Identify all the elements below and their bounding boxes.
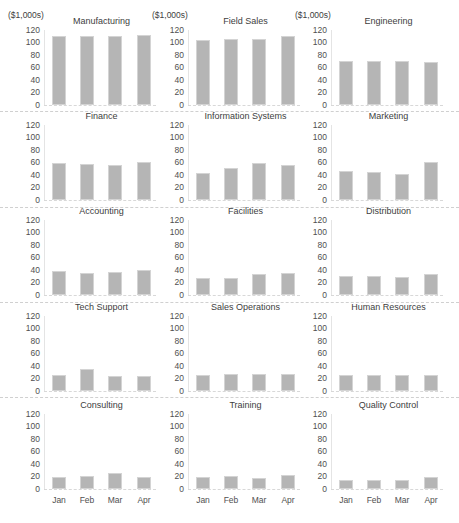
bar-feb (224, 168, 238, 200)
x-tick-label: Jan (189, 495, 217, 505)
bar-feb (367, 276, 381, 295)
x-axis-line (331, 489, 443, 490)
y-tick-label: 100 (305, 324, 327, 333)
x-axis-line (188, 200, 300, 201)
bar-apr (424, 162, 438, 200)
x-axis-line (188, 295, 300, 296)
y-tick-label: 0 (162, 387, 184, 396)
bar-jan (339, 480, 353, 489)
y-tick-label: 40 (18, 171, 40, 180)
y-tick-label: 40 (305, 76, 327, 85)
x-axis-line (331, 391, 443, 392)
bar-mar (252, 163, 266, 201)
y-tick-label: 80 (18, 337, 40, 346)
panel-title: Accounting (44, 206, 159, 216)
x-axis-line (188, 489, 300, 490)
bar-feb (224, 476, 238, 489)
bar-mar (395, 174, 409, 200)
y-tick-label: 20 (18, 374, 40, 383)
y-tick-label: 80 (162, 146, 184, 155)
y-tick-label: 20 (162, 183, 184, 192)
y-tick-label: 100 (162, 228, 184, 237)
y-tick-label: 40 (18, 460, 40, 469)
y-tick-label: 60 (162, 63, 184, 72)
x-axis-line (188, 105, 300, 106)
bar-jan (196, 278, 210, 295)
y-tick-label: 120 (162, 121, 184, 130)
y-tick-label: 20 (162, 88, 184, 97)
panel-title: Finance (44, 111, 159, 121)
y-tick-label: 0 (162, 196, 184, 205)
bar-apr (281, 475, 295, 489)
y-tick-label: 40 (305, 362, 327, 371)
y-tick-label: 120 (305, 26, 327, 35)
bar-jan (196, 173, 210, 201)
x-axis-line (188, 391, 300, 392)
x-tick-label: Jan (45, 495, 73, 505)
y-tick-label: 100 (305, 422, 327, 431)
y-axis-line (331, 125, 332, 200)
y-tick-label: 40 (305, 171, 327, 180)
y-tick-label: 120 (18, 216, 40, 225)
y-tick-label: 0 (305, 101, 327, 110)
y-tick-label: 100 (305, 228, 327, 237)
y-tick-label: 0 (162, 101, 184, 110)
y-tick-label: 80 (18, 241, 40, 250)
bar-mar (252, 274, 266, 295)
x-tick-label: Jan (332, 495, 360, 505)
x-tick-label: Mar (245, 495, 273, 505)
y-tick-label: 100 (162, 38, 184, 47)
bar-mar (108, 165, 122, 200)
panel-title: Sales Operations (188, 302, 303, 312)
y-axis-line (44, 30, 45, 105)
y-axis-line (188, 125, 189, 200)
y-tick-label: 60 (162, 447, 184, 456)
y-tick-label: 0 (305, 485, 327, 494)
y-tick-label: 60 (18, 158, 40, 167)
y-tick-label: 100 (162, 133, 184, 142)
bar-mar (108, 272, 122, 295)
x-tick-label: Feb (217, 495, 245, 505)
bar-apr (281, 36, 295, 105)
bar-feb (367, 61, 381, 105)
y-tick-label: 40 (305, 266, 327, 275)
y-tick-label: 100 (162, 324, 184, 333)
y-tick-label: 80 (305, 241, 327, 250)
y-tick-label: 40 (18, 76, 40, 85)
y-tick-label: 60 (305, 63, 327, 72)
y-tick-label: 80 (18, 51, 40, 60)
x-axis-line (44, 200, 156, 201)
bar-jan (52, 36, 66, 105)
panel-title: Engineering (331, 16, 446, 26)
bar-feb (80, 369, 94, 391)
y-tick-label: 0 (18, 485, 40, 494)
y-tick-label: 60 (305, 349, 327, 358)
y-axis-line (44, 220, 45, 295)
unit-label: ($1,000s) (8, 10, 44, 20)
x-tick-label: Apr (130, 495, 158, 505)
bar-feb (224, 374, 238, 391)
y-axis-line (331, 414, 332, 489)
y-axis-line (331, 30, 332, 105)
bar-jan (196, 375, 210, 391)
panel-title: Tech Support (44, 302, 159, 312)
y-tick-label: 120 (162, 312, 184, 321)
bar-feb (367, 375, 381, 391)
y-tick-label: 60 (18, 447, 40, 456)
bar-jan (196, 477, 210, 490)
y-axis-line (44, 125, 45, 200)
y-tick-label: 40 (162, 266, 184, 275)
bar-apr (137, 35, 151, 105)
y-axis-line (188, 414, 189, 489)
bar-mar (395, 277, 409, 295)
x-tick-label: Feb (360, 495, 388, 505)
y-tick-label: 0 (18, 387, 40, 396)
bar-feb (367, 480, 381, 489)
y-tick-label: 60 (18, 63, 40, 72)
y-tick-label: 80 (162, 51, 184, 60)
bar-apr (137, 376, 151, 391)
x-axis-line (331, 105, 443, 106)
y-tick-label: 60 (305, 447, 327, 456)
y-tick-label: 80 (162, 435, 184, 444)
y-tick-label: 80 (162, 337, 184, 346)
